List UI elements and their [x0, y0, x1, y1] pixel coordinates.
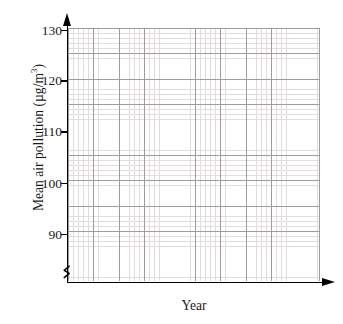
grid-border-right — [319, 28, 320, 281]
x-axis-arrow-icon — [322, 278, 335, 286]
y-tick-label-90: 90 — [49, 228, 63, 242]
y-tick-mark-120 — [61, 80, 68, 82]
y-axis-title-text: Mean air pollution (µg/m — [31, 73, 46, 211]
y-axis-title-exponent: 3 — [29, 68, 39, 73]
y-tick-mark-130 — [61, 30, 68, 32]
y-tick-mark-90 — [61, 234, 68, 236]
y-axis-line — [67, 26, 69, 283]
y-tick-mark-110 — [61, 131, 68, 133]
grid-border-top — [68, 28, 320, 29]
y-axis-title-suffix: ) — [31, 64, 46, 69]
y-axis-arrow-icon — [63, 13, 71, 26]
x-axis-title: Year — [68, 298, 320, 313]
plot-grid-area — [68, 28, 320, 281]
y-tick-mark-100 — [61, 183, 68, 185]
chart-figure: 130 120 110 100 90 Mean air pollution (µ… — [0, 0, 343, 324]
y-axis-title: Mean air pollution (µg/m3) — [31, 28, 46, 248]
x-axis-line — [67, 282, 323, 284]
y-axis-break-icon — [62, 263, 73, 279]
